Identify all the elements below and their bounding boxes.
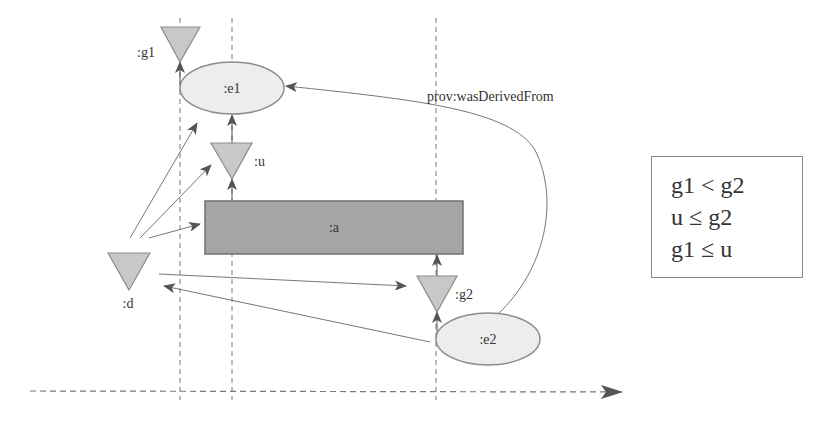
constraint-line: u ≤ g2 [671, 201, 802, 233]
node-e2-label: :e2 [479, 332, 496, 347]
edge-d-to-g2 [159, 274, 406, 286]
node-e1: :e1 [180, 62, 284, 114]
constraint-line: g1 ≤ u [671, 233, 802, 265]
edge-d-to-u [140, 165, 211, 238]
derivation-triangle [108, 253, 150, 290]
node-u-label: :u [254, 154, 265, 169]
node-d-label: :d [123, 296, 134, 311]
edge-d-to-e1 [130, 123, 197, 238]
usage-triangle [211, 143, 252, 179]
node-g1-label: :g1 [137, 45, 155, 60]
constraint-line: g1 < g2 [671, 169, 802, 201]
node-a-label: :a [329, 220, 340, 235]
node-a: :a [205, 201, 463, 254]
generation-triangle [161, 27, 200, 62]
edge-d-to-a [149, 224, 200, 238]
timeline-axis [30, 391, 622, 392]
edge-e2-to-d [164, 286, 430, 342]
node-g2: :g2 [417, 276, 473, 312]
node-d: :d [108, 253, 150, 311]
generation-triangle [417, 276, 457, 312]
was-derived-from-edge [286, 86, 547, 314]
constraints-box: g1 < g2 u ≤ g2 g1 ≤ u [651, 156, 803, 278]
node-g1: :g1 [137, 27, 200, 62]
node-e1-label: :e1 [223, 81, 240, 96]
node-u: :u [211, 143, 265, 179]
was-derived-from-label: prov:wasDerivedFrom [427, 89, 554, 104]
node-g2-label: :g2 [455, 287, 473, 302]
node-e2: :e2 [436, 313, 540, 365]
